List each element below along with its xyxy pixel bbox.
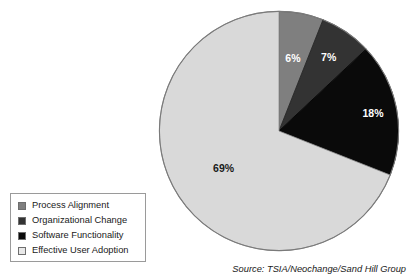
legend-item-label: Effective User Adoption	[32, 245, 128, 256]
legend-swatch-icon	[18, 247, 26, 255]
legend-item-software-functionality[interactable]: Software Functionality	[18, 228, 145, 243]
pie-svg: 6% 7% 18% 69%	[157, 9, 401, 253]
pie-label-process-alignment: 6%	[285, 52, 301, 64]
chart-legend: Process Alignment Organizational Change …	[10, 193, 146, 262]
source-attribution: Source: TSIA/Neochange/Sand Hill Group	[232, 264, 406, 274]
pie-chart-graphic: 6% 7% 18% 69%	[157, 9, 401, 253]
pie-label-software-functionality: 18%	[362, 107, 384, 119]
pie-label-effective-user-adoption: 69%	[213, 162, 235, 174]
pie-chart-figure: 6% 7% 18% 69% Process Alignment Organiza…	[0, 0, 414, 280]
pie-slices	[159, 11, 398, 250]
legend-swatch-icon	[18, 202, 26, 210]
pie-label-organizational-change: 7%	[321, 51, 337, 63]
legend-item-organizational-change[interactable]: Organizational Change	[18, 213, 145, 228]
legend-item-effective-user-adoption[interactable]: Effective User Adoption	[18, 243, 145, 258]
legend-item-label: Software Functionality	[32, 230, 123, 241]
legend-swatch-icon	[18, 217, 26, 225]
legend-item-label: Process Alignment	[32, 200, 109, 211]
legend-item-label: Organizational Change	[32, 215, 127, 226]
legend-item-process-alignment[interactable]: Process Alignment	[18, 198, 145, 213]
legend-swatch-icon	[18, 232, 26, 240]
